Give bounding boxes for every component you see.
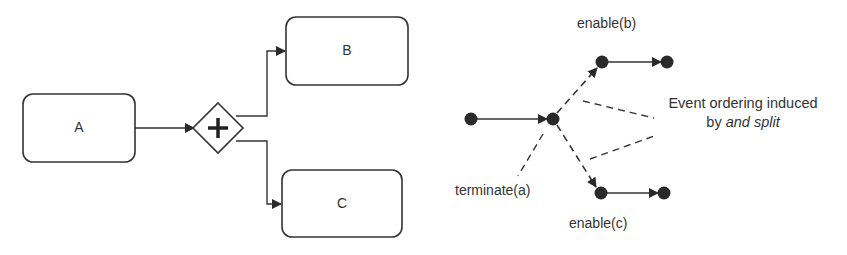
edge-n2-n5-dashed <box>557 125 596 187</box>
task-c-label: C <box>282 195 402 211</box>
event-node-4 <box>661 56 674 69</box>
flow-gateway-to-b <box>236 51 285 116</box>
event-node-5 <box>595 187 608 200</box>
note-line-2: by and split <box>648 113 838 132</box>
terminate-a-pointer <box>518 134 543 176</box>
event-node-3 <box>596 56 609 69</box>
terminate-a-label: terminate(a) <box>455 182 530 198</box>
edge-n2-n3-dashed <box>557 68 597 113</box>
enable-b-label: enable(b) <box>577 15 636 31</box>
note-line-2-prefix: by <box>706 114 725 130</box>
task-a-label: A <box>23 119 135 135</box>
event-node-2 <box>547 113 560 126</box>
note-line-2-italic: and split <box>726 114 780 130</box>
note-pointer-lower <box>590 135 657 159</box>
event-ordering-note: Event ordering induced by and split <box>648 94 838 132</box>
enable-c-label: enable(c) <box>569 215 627 231</box>
task-b-label: B <box>286 42 408 58</box>
note-pointer-upper <box>583 101 654 118</box>
event-node-1 <box>465 113 478 126</box>
flow-gateway-to-c <box>236 141 281 204</box>
parallel-gateway <box>193 103 243 153</box>
event-node-6 <box>658 187 671 200</box>
note-line-1: Event ordering induced <box>648 94 838 113</box>
